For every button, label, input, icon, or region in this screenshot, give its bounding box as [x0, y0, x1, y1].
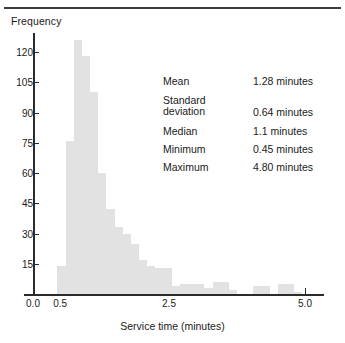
histogram-bar	[139, 260, 147, 294]
histogram-bar	[172, 286, 180, 294]
histogram-bar	[90, 92, 98, 294]
stats-value: 4.80 minutes	[253, 162, 313, 173]
histogram-figure: Frequency 153045607590105120 0.00.52.55.…	[0, 0, 345, 343]
stats-label: Median	[163, 126, 197, 137]
histogram-bar	[131, 244, 139, 294]
histogram-bar	[123, 234, 131, 294]
histogram-bar	[229, 290, 237, 294]
histogram-bar	[98, 173, 106, 294]
histogram-bar	[164, 268, 172, 294]
histogram-bar	[66, 141, 74, 294]
histogram-bar	[204, 288, 212, 294]
stats-value: 1.1 minutes	[253, 126, 307, 137]
stats-value: 1.28 minutes	[253, 76, 313, 87]
histogram-bar	[294, 292, 302, 294]
histogram-bar	[106, 209, 114, 294]
stats-label: Maximum	[163, 162, 209, 173]
histogram-bar	[261, 286, 269, 294]
stats-value: 0.64 minutes	[253, 107, 313, 118]
histogram-bar	[115, 227, 123, 294]
histogram-bar	[221, 282, 229, 294]
histogram-bar	[286, 284, 294, 294]
x-axis-title: Service time (minutes)	[0, 320, 345, 332]
histogram-bar	[57, 266, 65, 294]
stats-label: Mean	[163, 76, 189, 87]
histogram-bar	[253, 286, 261, 294]
histogram-bar	[196, 284, 204, 294]
stats-value: 0.45 minutes	[253, 144, 313, 155]
histogram-bar	[82, 56, 90, 294]
histogram-bar	[180, 284, 188, 294]
histogram-bar	[278, 284, 286, 294]
histogram-bar	[188, 284, 196, 294]
stats-label: Minimum	[163, 144, 206, 155]
stats-label: Standard deviation	[163, 95, 206, 116]
histogram-bar	[147, 266, 155, 294]
histogram-bar	[74, 40, 82, 294]
histogram-bar	[155, 268, 163, 294]
histogram-bar	[213, 282, 221, 294]
